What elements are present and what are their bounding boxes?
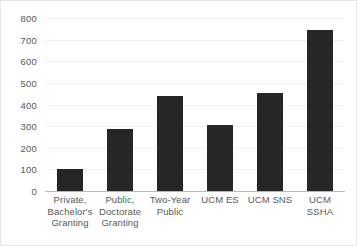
bar-slot (245, 18, 295, 191)
x-tick-label: UCM SNS (245, 194, 295, 206)
y-tick-label: 0 (32, 186, 37, 197)
y-tick-label: 100 (21, 164, 37, 175)
bar[interactable] (207, 125, 233, 191)
bar[interactable] (157, 96, 183, 191)
x-axis: Private, Bachelor's GrantingPublic, Doct… (45, 194, 345, 244)
y-tick-label: 800 (21, 13, 37, 24)
bar[interactable] (257, 93, 283, 191)
bar-slot (295, 18, 345, 191)
y-tick-label: 700 (21, 34, 37, 45)
bar-chart: 8007006005004003002001000 Private, Bache… (0, 0, 357, 246)
y-tick-label: 500 (21, 77, 37, 88)
x-axis-line (45, 191, 345, 192)
y-axis: 8007006005004003002001000 (1, 18, 41, 191)
bar[interactable] (57, 169, 83, 191)
y-tick-label: 400 (21, 99, 37, 110)
bar[interactable] (107, 129, 133, 191)
x-tick-label: Public, Doctorate Granting (95, 194, 145, 229)
bar-slot (195, 18, 245, 191)
bar-slot (95, 18, 145, 191)
y-tick-label: 200 (21, 142, 37, 153)
bar-slot (145, 18, 195, 191)
plot-area (45, 18, 345, 191)
y-tick-label: 300 (21, 121, 37, 132)
x-tick-label: Two-Year Public (145, 194, 195, 217)
bar[interactable] (307, 30, 333, 191)
y-tick-label: 600 (21, 56, 37, 67)
x-tick-label: UCM SSHA (295, 194, 345, 217)
x-tick-label: UCM ES (195, 194, 245, 206)
x-tick-label: Private, Bachelor's Granting (45, 194, 95, 229)
bar-slot (45, 18, 95, 191)
